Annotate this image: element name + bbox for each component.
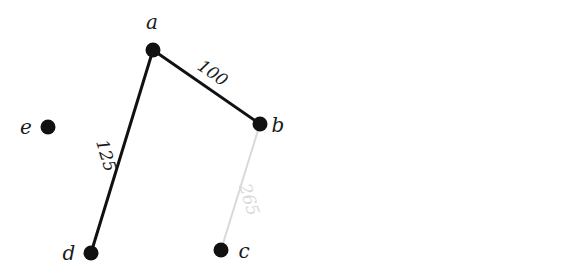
- node-label-c: c: [238, 239, 249, 263]
- node-label-e: e: [20, 115, 32, 139]
- node-label-b: b: [272, 113, 285, 137]
- node-d[interactable]: [84, 246, 99, 261]
- graph-canvas: 100 125 265 a b c d e: [0, 0, 580, 278]
- node-c[interactable]: [214, 243, 229, 258]
- node-label-d: d: [63, 241, 76, 265]
- graph-figure: 100 125 265 a b c d e: [0, 0, 580, 278]
- node-b[interactable]: [253, 117, 268, 132]
- figure-background: [0, 0, 580, 278]
- node-e[interactable]: [41, 120, 56, 135]
- node-label-a: a: [146, 10, 158, 34]
- node-a[interactable]: [146, 43, 161, 58]
